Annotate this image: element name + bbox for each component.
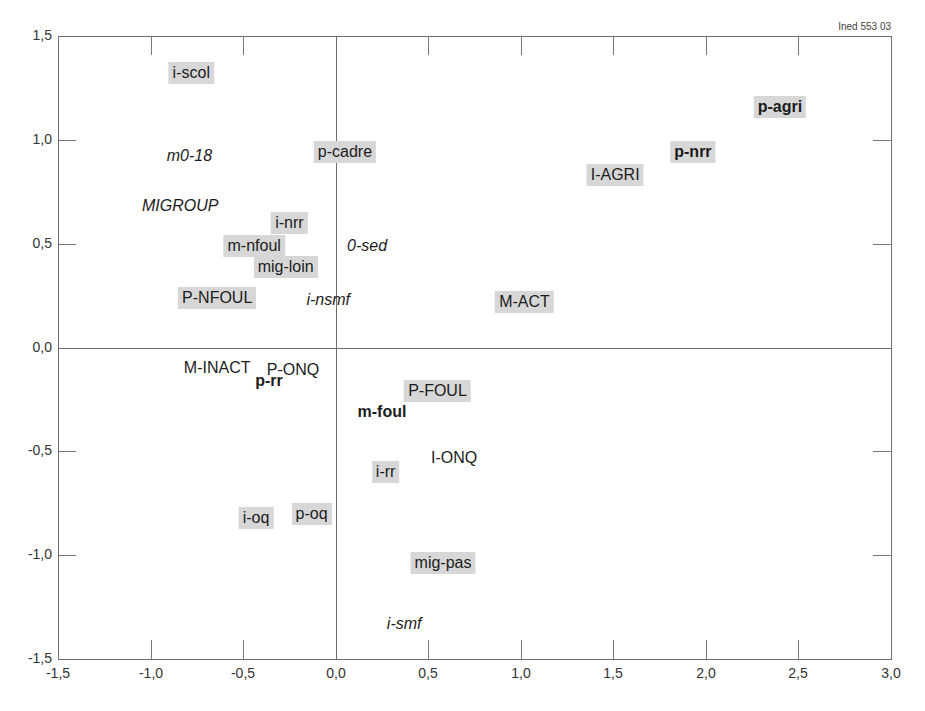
y-tick-left xyxy=(58,555,76,556)
point-label-p-oq: p-oq xyxy=(292,503,332,525)
correspondence-analysis-chart: Ined 553 03 -1,5-1,0-0,50,00,51,01,52,02… xyxy=(0,0,925,711)
x-tick-top xyxy=(613,36,614,55)
y-tick-left xyxy=(58,244,76,245)
y-tick-label: -1,5 xyxy=(2,650,52,666)
x-tick-top xyxy=(243,36,244,55)
point-label-p-cadre: p-cadre xyxy=(314,141,376,163)
point-label-m-inact: M-INACT xyxy=(180,357,255,379)
x-tick-label: 1,0 xyxy=(496,665,546,681)
x-tick-label: -0,5 xyxy=(218,665,268,681)
point-label-p-nrr: p-nrr xyxy=(670,141,715,163)
y-tick-label: -1,0 xyxy=(2,546,52,562)
y-tick-right xyxy=(873,244,891,245)
point-label-m-nfoul: m-nfoul xyxy=(224,235,285,257)
x-tick-bottom xyxy=(243,640,244,659)
point-label-m0-18: m0-18 xyxy=(163,145,216,167)
y-tick-right xyxy=(873,451,891,452)
point-label-0-sed: 0-sed xyxy=(343,235,391,257)
x-tick-top xyxy=(798,36,799,55)
x-tick-bottom xyxy=(706,640,707,659)
x-tick-top xyxy=(428,36,429,55)
point-label-i-smf: i-smf xyxy=(383,613,426,635)
point-label-i-scol: i-scol xyxy=(169,62,214,84)
x-tick-label: 0,0 xyxy=(311,665,361,681)
y-tick-label: 1,0 xyxy=(2,131,52,147)
point-label-m-act: M-ACT xyxy=(495,291,554,313)
x-tick-bottom xyxy=(613,640,614,659)
point-label-p-agri: p-agri xyxy=(754,96,806,118)
y-tick-left xyxy=(58,140,76,141)
y-tick-label: 0,5 xyxy=(2,235,52,251)
point-label-m-foul: m-foul xyxy=(354,401,411,423)
y-tick-left xyxy=(58,451,76,452)
point-label-p-nfoul: P-NFOUL xyxy=(178,287,256,309)
x-tick-bottom xyxy=(151,640,152,659)
point-label-i-rr: i-rr xyxy=(372,461,400,483)
x-tick-top xyxy=(521,36,522,55)
point-label-i-agri: I-AGRI xyxy=(587,164,644,186)
y-tick-right xyxy=(873,140,891,141)
point-label-i-nsmf: i-nsmf xyxy=(302,289,354,311)
x-tick-label: 2,5 xyxy=(773,665,823,681)
point-label-i-oq: i-oq xyxy=(239,507,274,529)
x-tick-label: -1,0 xyxy=(126,665,176,681)
x-tick-label: 3,0 xyxy=(866,665,916,681)
x-tick-label: -1,5 xyxy=(33,665,83,681)
point-label-migroup: MIGROUP xyxy=(138,195,222,217)
y-tick-label: 0,0 xyxy=(2,339,52,355)
x-tick-bottom xyxy=(798,640,799,659)
vertical-zero-line xyxy=(336,36,337,659)
x-tick-top xyxy=(151,36,152,55)
point-label-p-rr: p-rr xyxy=(251,370,287,392)
y-tick-right xyxy=(873,555,891,556)
point-label-mig-pas: mig-pas xyxy=(411,552,476,574)
point-label-p-foul: P-FOUL xyxy=(404,380,471,402)
y-tick-label: -0,5 xyxy=(2,442,52,458)
x-tick-top xyxy=(706,36,707,55)
point-label-mig-loin: mig-loin xyxy=(254,256,318,278)
x-tick-label: 1,5 xyxy=(588,665,638,681)
point-label-i-onq: I-ONQ xyxy=(427,447,481,469)
horizontal-zero-line xyxy=(58,348,891,349)
x-tick-bottom xyxy=(428,640,429,659)
x-tick-bottom xyxy=(521,640,522,659)
point-label-i-nrr: i-nrr xyxy=(271,212,307,234)
source-label: Ined 553 03 xyxy=(838,21,891,32)
x-tick-label: 2,0 xyxy=(681,665,731,681)
x-tick-label: 0,5 xyxy=(403,665,453,681)
y-tick-label: 1,5 xyxy=(2,27,52,43)
